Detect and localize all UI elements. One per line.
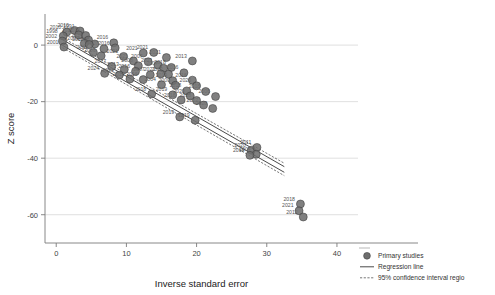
data-point[interactable] [162,54,170,62]
y-axis-title: Z score [5,113,16,145]
point-label: 2011 [240,139,251,145]
y-tick-label-2: -40 [27,154,38,163]
data-point[interactable] [172,81,180,89]
data-point[interactable] [146,71,154,79]
y-tick-label-3: -60 [27,211,38,220]
y-tick-label-1: -20 [27,97,38,106]
data-point[interactable] [101,69,109,77]
point-label: 2024 [88,65,100,71]
point-label: 2021 [282,202,294,208]
data-point[interactable] [108,63,116,71]
data-point[interactable] [126,75,134,83]
data-point[interactable] [246,151,254,159]
data-point[interactable] [177,96,185,104]
legend-label-primary-studies: Primary studies [378,252,424,260]
data-point[interactable] [157,81,165,89]
point-label: 2001 [47,39,59,45]
data-point[interactable] [139,49,147,57]
data-point[interactable] [111,44,119,52]
data-point[interactable] [212,93,220,101]
data-point[interactable] [139,76,147,84]
data-point[interactable] [89,48,97,56]
point-label: 2019 [163,109,175,115]
data-point[interactable] [176,113,184,121]
data-point[interactable] [150,48,158,56]
data-point[interactable] [120,52,128,60]
y-tick-label-0: 0 [34,41,38,50]
data-point[interactable] [209,104,217,112]
data-point[interactable] [148,90,156,98]
data-point[interactable] [202,87,210,95]
data-point[interactable] [157,70,165,78]
data-point[interactable] [193,97,201,105]
data-point[interactable] [144,58,152,66]
data-point[interactable] [115,71,123,79]
data-point[interactable] [200,101,208,109]
data-point[interactable] [132,67,140,75]
x-tick-label-4: 40 [333,249,341,258]
data-point[interactable] [60,43,68,51]
data-point[interactable] [97,52,105,60]
scatter-chart: 0102030400-20-40-60Inverse standard erro… [0,0,495,295]
data-point[interactable] [188,57,196,65]
legend-marker-primary-studies [364,252,371,259]
point-label: 2013 [175,53,187,59]
data-point[interactable] [169,91,177,99]
data-point[interactable] [85,41,93,49]
data-point[interactable] [193,82,201,90]
data-point[interactable] [191,116,199,124]
x-axis-title: Inverse standard error [155,278,248,289]
x-tick-label-1: 10 [122,249,130,258]
point-label: 2018 [233,147,245,153]
data-point[interactable] [299,213,307,221]
x-tick-label-3: 30 [263,249,271,258]
point-label: 2018 [283,196,295,202]
x-tick-label-2: 20 [192,249,200,258]
x-tick-label-0: 0 [54,249,58,258]
legend-label-confidence-region: 95% confidence interval regio [378,274,465,282]
data-point[interactable] [180,69,188,77]
legend-label-regression-line: Regression line [378,263,424,271]
funnel-plot-figure: 0102030400-20-40-60Inverse standard erro… [0,0,495,295]
point-label: 2018 [135,86,147,92]
